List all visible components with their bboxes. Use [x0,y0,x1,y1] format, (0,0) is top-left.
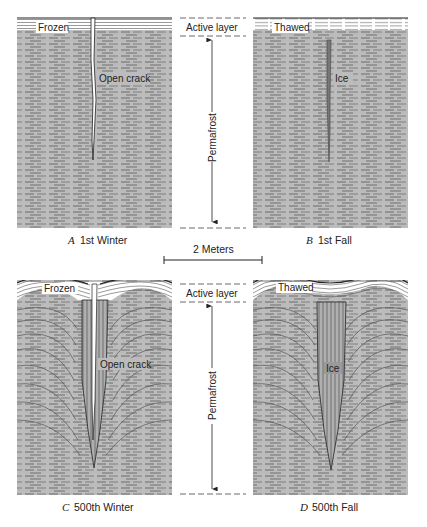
scale-bar-label: 2 Meters [193,243,234,255]
surface-label-a: Frozen [38,22,69,33]
caption-a: 1st Winter [80,234,128,246]
feature-label-c: Open crack [100,359,152,370]
panel-d: Thawed Ice D 500th Fall [253,274,408,513]
surface-label-c: Frozen [44,283,75,294]
surface-label-b: Thawed [274,22,310,33]
panel-letter-d: D [299,501,308,513]
feature-label-a: Open crack [99,73,151,84]
panel-letter-a: A [67,234,75,246]
surface-label-d: Thawed [278,282,314,293]
panel-b: Thawed Ice B 1st Fall [253,18,408,246]
active-layer-label-bottom: Active layer [186,288,238,299]
feature-label-d: Ice [326,363,340,374]
panel-letter-c: C [62,501,70,513]
caption-c: 500th Winter [74,501,134,513]
scale-bar: 2 Meters [164,243,262,264]
active-layer-label-top: Active layer [186,22,238,33]
permafrost-label-top: Permafrost [207,113,218,162]
annotation-bottom: Active layer Permafrost [180,284,246,494]
panel-a: Frozen Open crack A 1st Winter [17,18,172,246]
permafrost-label-bottom: Permafrost [207,371,218,420]
panel-letter-b: B [306,234,313,246]
caption-b: 1st Fall [318,234,352,246]
feature-label-b: Ice [335,73,349,84]
ice-wedge-diagram: Frozen Open crack A 1st Winter Thawed Ic… [0,0,427,527]
caption-d: 500th Fall [312,501,358,513]
annotation-top: Active layer Permafrost [180,18,246,228]
panel-c: Frozen Open crack C 500th Winter [17,277,172,513]
